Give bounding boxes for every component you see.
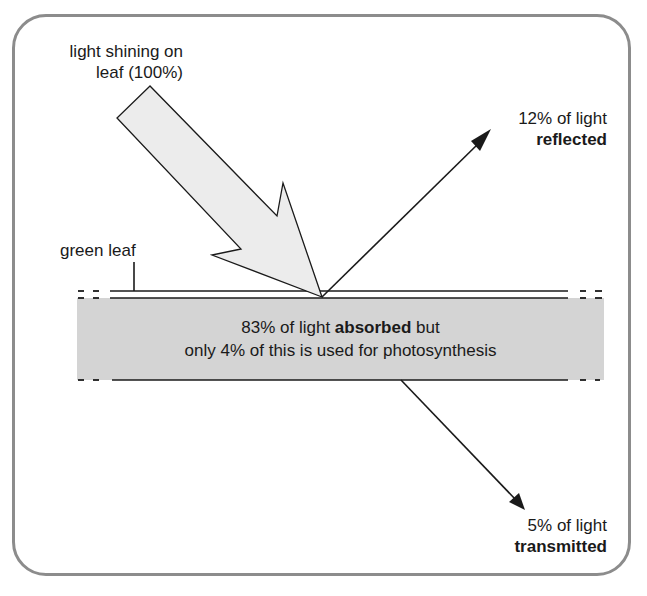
absorbed-label-line2: only 4% of this is used for photosynthes… bbox=[77, 339, 604, 362]
transmitted-label-line2: transmitted bbox=[514, 536, 607, 557]
incident-label: light shining on leaf (100%) bbox=[70, 41, 183, 83]
reflected-label-line2: reflected bbox=[518, 129, 607, 150]
absorbed-label-line1: 83% of light absorbed but bbox=[77, 316, 604, 339]
reflected-label: 12% of light reflected bbox=[518, 108, 607, 150]
absorbed-post: but bbox=[411, 318, 439, 337]
incident-light-arrow bbox=[117, 86, 322, 297]
reflected-label-line1: 12% of light bbox=[518, 108, 607, 129]
incident-label-line1: light shining on bbox=[70, 41, 183, 62]
transmitted-label: 5% of light transmitted bbox=[514, 515, 607, 557]
absorbed-bold: absorbed bbox=[335, 318, 412, 337]
absorbed-label: 83% of light absorbed but only 4% of thi… bbox=[77, 316, 604, 362]
incident-label-line2: leaf (100%) bbox=[70, 62, 183, 83]
transmitted-label-line1: 5% of light bbox=[514, 515, 607, 536]
reflected-light-line bbox=[322, 142, 480, 297]
leaf-label: green leaf bbox=[60, 240, 136, 261]
transmitted-light-line bbox=[401, 380, 516, 500]
absorbed-pre: 83% of light bbox=[241, 318, 335, 337]
diagram-graphics bbox=[0, 0, 647, 596]
